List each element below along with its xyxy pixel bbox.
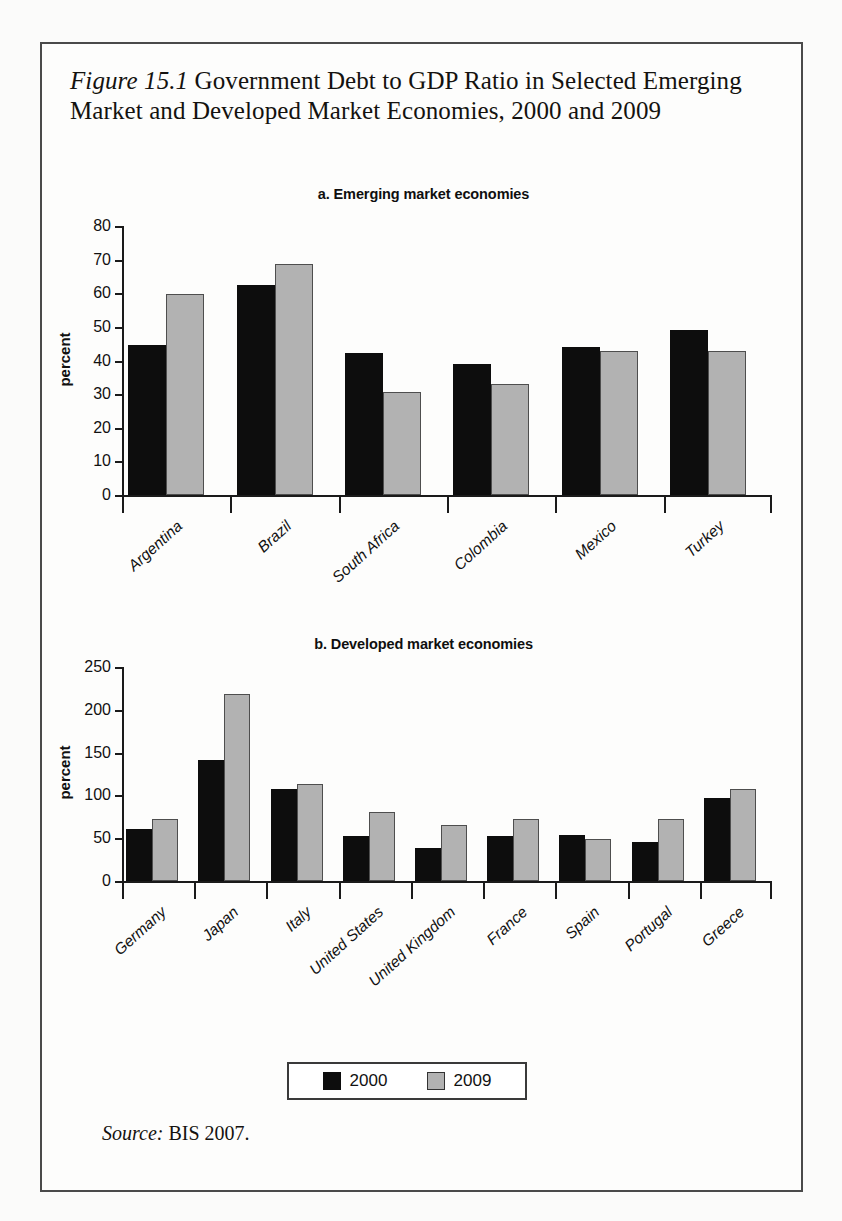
x-tick-b — [555, 883, 557, 899]
figure-frame: Figure 15.1 Government Debt to GDP Ratio… — [40, 42, 803, 1192]
legend-item-2000: 2000 — [323, 1071, 388, 1091]
x-tick-a — [664, 497, 666, 513]
x-tick-a — [770, 497, 772, 513]
bar-b — [415, 848, 441, 881]
y-tick-a — [115, 361, 122, 363]
chart-subtitle-a: a. Emerging market economies — [42, 186, 805, 202]
y-tick-a — [115, 293, 122, 295]
x-tick-b — [339, 883, 341, 899]
x-tick-a — [339, 497, 341, 513]
y-tick-b — [115, 710, 122, 712]
bar-b — [224, 694, 250, 881]
bar-b — [198, 760, 224, 881]
x-tick-b — [628, 883, 630, 899]
x-tick-b — [700, 883, 702, 899]
bar-b — [126, 829, 152, 881]
y-axis-title-a: percent — [56, 299, 73, 419]
bar-a — [275, 264, 313, 495]
x-tick-b — [194, 883, 196, 899]
bar-a — [383, 392, 421, 495]
y-axis-tick-label: 80 — [67, 217, 111, 235]
y-axis-tick-label: 60 — [67, 284, 111, 302]
y-tick-b — [115, 667, 122, 669]
legend-item-2009: 2009 — [427, 1071, 492, 1091]
y-tick-a — [115, 428, 122, 430]
bar-b — [658, 819, 684, 881]
x-tick-b — [122, 883, 124, 899]
legend-swatch-icon — [323, 1072, 341, 1090]
x-tick-a — [447, 497, 449, 513]
source-label: Source: — [102, 1122, 163, 1144]
x-tick-b — [266, 883, 268, 899]
x-axis-category-label: Greece — [587, 903, 748, 1050]
x-tick-a — [555, 497, 557, 513]
bar-a — [708, 351, 746, 495]
y-tick-a — [115, 226, 122, 228]
bar-a — [128, 345, 166, 495]
bar-a — [237, 285, 275, 495]
bar-b — [152, 819, 178, 881]
legend-label: 2009 — [454, 1071, 492, 1091]
y-axis-tick-label: 50 — [67, 829, 111, 847]
x-tick-a — [230, 497, 232, 513]
source-note: Source: BIS 2007. — [102, 1122, 250, 1145]
y-axis-tick-label: 100 — [67, 786, 111, 804]
x-tick-b — [770, 883, 772, 899]
bar-b — [369, 812, 395, 881]
x-tick-b — [483, 883, 485, 899]
y-axis-line-a — [122, 226, 124, 496]
y-axis-title-b: percent — [56, 713, 73, 833]
y-axis-tick-label: 30 — [67, 385, 111, 403]
y-tick-a — [115, 394, 122, 396]
y-tick-a — [115, 327, 122, 329]
legend-label: 2000 — [350, 1071, 388, 1091]
y-axis-tick-label: 0 — [67, 872, 111, 890]
figure-number: Figure 15.1 — [70, 67, 188, 94]
bar-a — [453, 364, 491, 495]
source-value: BIS 2007. — [163, 1122, 249, 1144]
y-axis-tick-label: 70 — [67, 251, 111, 269]
bar-b — [513, 819, 539, 881]
bar-a — [600, 351, 638, 495]
bar-b — [632, 842, 658, 881]
bar-b — [271, 789, 297, 881]
y-axis-line-b — [122, 667, 124, 882]
y-tick-b — [115, 838, 122, 840]
y-axis-tick-label: 10 — [67, 452, 111, 470]
bar-a — [166, 294, 204, 495]
bar-a — [670, 330, 708, 495]
y-axis-tick-label: 250 — [67, 658, 111, 676]
y-axis-tick-label: 20 — [67, 419, 111, 437]
y-axis-tick-label: 200 — [67, 701, 111, 719]
x-axis-line-b — [122, 881, 772, 883]
bar-b — [297, 784, 323, 881]
chart-legend: 20002009 — [287, 1062, 527, 1100]
bar-b — [343, 836, 369, 881]
bar-b — [730, 789, 756, 881]
y-axis-tick-label: 40 — [67, 352, 111, 370]
y-axis-tick-label: 150 — [67, 744, 111, 762]
x-tick-b — [411, 883, 413, 899]
bar-a — [562, 347, 600, 495]
y-tick-b — [115, 881, 122, 883]
x-tick-a — [122, 497, 124, 513]
legend-swatch-icon — [427, 1072, 445, 1090]
figure-title: Figure 15.1 Government Debt to GDP Ratio… — [70, 66, 760, 125]
bar-b — [559, 835, 585, 881]
y-tick-a — [115, 495, 122, 497]
bar-a — [345, 353, 383, 495]
y-axis-tick-label: 0 — [67, 486, 111, 504]
y-tick-a — [115, 260, 122, 262]
y-tick-b — [115, 753, 122, 755]
bar-b — [585, 839, 611, 881]
bar-b — [487, 836, 513, 881]
chart-subtitle-b: b. Developed market economies — [42, 636, 805, 652]
y-axis-tick-label: 50 — [67, 318, 111, 336]
y-tick-a — [115, 461, 122, 463]
y-tick-b — [115, 795, 122, 797]
bar-b — [441, 825, 467, 881]
bar-a — [491, 384, 529, 495]
bar-b — [704, 798, 730, 881]
